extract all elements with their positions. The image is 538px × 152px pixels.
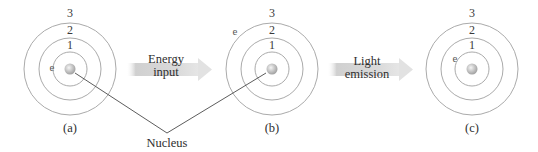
bohr-atom-transition-diagram: 3 2 1 e (a) 3 2 1 e (b) 3 2 1 e (c) Ener…: [0, 0, 538, 152]
orbit-label-1-c: 1: [469, 39, 475, 51]
orbit-label-1-b: 1: [269, 39, 275, 51]
caption-c: (c): [465, 122, 479, 135]
orbit-label-1-a: 1: [67, 39, 73, 51]
electron-label-a: e: [50, 62, 55, 73]
nucleus-leader-lines: [75, 73, 266, 133]
orbit-label-3-c: 3: [469, 7, 475, 19]
leader-line-b: [167, 73, 266, 133]
orbit-label-2-c: 2: [469, 24, 475, 36]
electron-label-c: e: [453, 53, 458, 64]
nucleus-icon: [65, 64, 76, 75]
nucleus-icon: [267, 64, 278, 75]
orbit-label-3-a: 3: [67, 7, 73, 19]
nucleus-callout-label: Nucleus: [147, 137, 188, 150]
caption-a: (a): [63, 122, 77, 135]
orbit-label-3-b: 3: [269, 7, 275, 19]
nucleus-icon: [467, 64, 478, 75]
orbit-label-2-b: 2: [269, 24, 275, 36]
electron-label-b: e: [233, 26, 238, 37]
orbit-label-2-a: 2: [67, 24, 73, 36]
caption-b: (b): [265, 122, 280, 135]
light-emission-label-line2: emission: [345, 68, 389, 81]
leader-line-a: [75, 73, 167, 133]
energy-input-label-line2: input: [153, 66, 179, 79]
